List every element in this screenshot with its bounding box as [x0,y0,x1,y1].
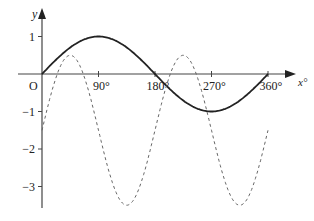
labels: 90°180°270°360°1−1−2−3yx°O [22,7,308,194]
y-tick-label: −3 [22,180,35,194]
y-axis-label: y [31,7,38,21]
chart-svg: 90°180°270°360°1−1−2−3yx°O [0,0,314,221]
x-tick-label: 360° [260,79,283,93]
x-axis-arrow-icon [285,70,296,78]
curves [42,37,268,206]
y-axis-arrow-icon [38,8,46,19]
y-tick-label: −2 [22,142,35,156]
origin-label: O [29,79,38,93]
y-tick-label: −1 [22,105,35,119]
x-tick-label: 270° [203,79,226,93]
x-tick-label: 90° [93,79,110,93]
dashed-curve [42,55,268,205]
x-tick-label: 180° [147,79,170,93]
chart: 90°180°270°360°1−1−2−3yx°O [0,0,314,221]
y-tick-label: 1 [29,30,35,44]
x-axis-label: x° [297,76,308,88]
axes [18,8,296,208]
